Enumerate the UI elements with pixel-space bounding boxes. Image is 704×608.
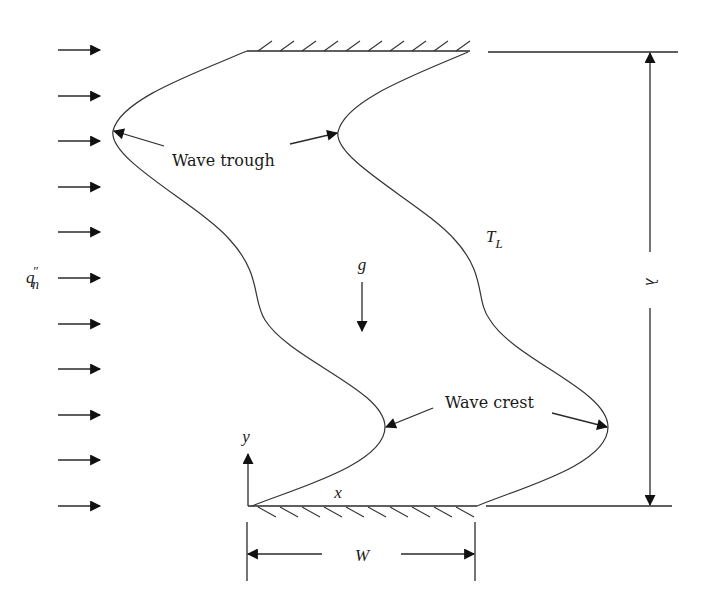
wave-trough-annotation: Wave trough [114,131,337,170]
gravity-label: g [358,255,367,274]
wave-trough-arrow-icon [290,133,337,144]
wave-crest-arrow-icon [386,408,433,427]
wave-crest-annotation: Wave crest [386,393,607,427]
coordinate-axes: y x [240,427,342,506]
heat-flux-label: q″n [26,263,39,292]
y-axis-label: y [240,427,250,446]
wave-crest-arrow-icon [552,413,607,427]
width-label: W [355,546,371,565]
liquid-temperature-label: TL [486,227,503,251]
vapor-film-wave-diagram: q″n [0,0,704,608]
top-wall [247,41,470,51]
right-interface-curve [338,52,608,506]
wave-crest-label: Wave crest [445,393,534,412]
wavelength-dimension: λ [486,52,678,506]
x-axis-label: x [333,483,342,502]
bottom-wall [248,506,477,517]
heat-flux-arrows [58,50,100,506]
wavelength-label: λ [642,277,661,285]
gravity-indicator: g [358,255,367,331]
wave-trough-arrow-icon [114,131,164,146]
wave-trough-label: Wave trough [172,151,275,170]
width-dimension: W [247,522,475,581]
